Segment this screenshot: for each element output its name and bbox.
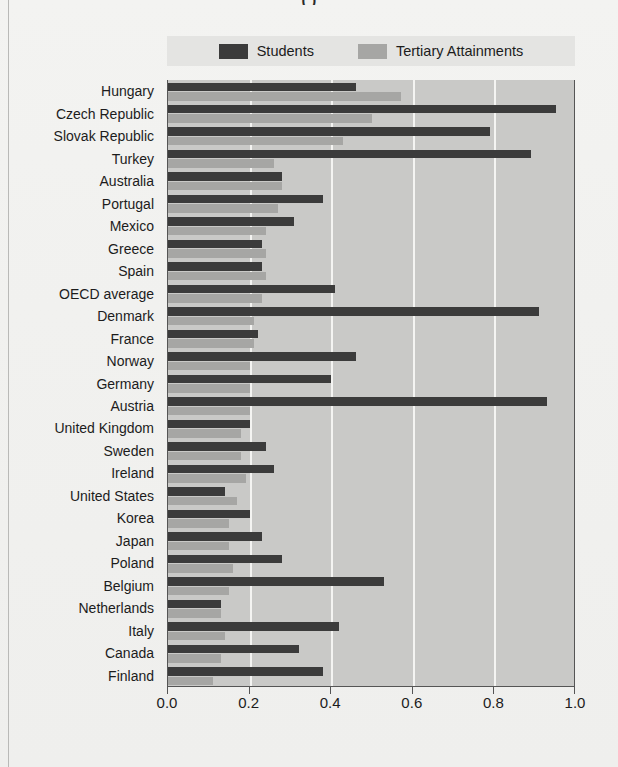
chart-row	[168, 440, 574, 462]
chart-row	[168, 485, 574, 507]
bar-students	[168, 375, 331, 384]
chart-row	[168, 125, 574, 147]
bar-tertiary	[168, 159, 274, 168]
legend-label: Tertiary Attainments	[396, 43, 523, 59]
bar-students	[168, 330, 258, 339]
bar-tertiary	[168, 182, 282, 191]
bar-tertiary	[168, 677, 213, 686]
chart-row	[168, 462, 574, 484]
bar-students	[168, 217, 294, 226]
bar-students	[168, 307, 539, 316]
x-axis-tick-label: 0.8	[483, 694, 504, 711]
chart-row	[168, 170, 574, 192]
chart-plot-area	[167, 80, 575, 687]
y-axis-label: Korea	[117, 510, 154, 526]
bar-tertiary	[168, 249, 266, 258]
bar-students	[168, 397, 547, 406]
chart-row	[168, 237, 574, 259]
legend-label: Students	[257, 43, 314, 59]
bar-students	[168, 510, 250, 519]
y-axis-label: Germany	[96, 376, 154, 392]
bar-tertiary	[168, 114, 372, 123]
bar-tertiary	[168, 474, 246, 483]
bar-tertiary	[168, 564, 233, 573]
bar-tertiary	[168, 519, 229, 528]
bar-tertiary	[168, 272, 266, 281]
bar-tertiary	[168, 362, 250, 371]
chart-row	[168, 642, 574, 664]
bar-students	[168, 127, 490, 136]
chart-row	[168, 192, 574, 214]
legend-entry-2: Tertiary Attainments	[358, 43, 523, 59]
y-axis-label: Spain	[118, 263, 154, 279]
bar-students	[168, 487, 225, 496]
y-axis-label: France	[110, 331, 154, 347]
bar-students	[168, 172, 282, 181]
y-axis-label: Poland	[110, 555, 154, 571]
y-axis-label: Finland	[108, 668, 154, 684]
y-axis-label: Mexico	[110, 218, 154, 234]
y-axis-label: Netherlands	[79, 600, 155, 616]
y-axis-label: Australia	[100, 173, 154, 189]
chart-row	[168, 305, 574, 327]
chart-row	[168, 597, 574, 619]
bar-tertiary	[168, 654, 221, 663]
bar-tertiary	[168, 609, 221, 618]
chart-row	[168, 417, 574, 439]
chart-row	[168, 620, 574, 642]
figure-caption: ( )	[0, 0, 618, 5]
y-axis-label: Norway	[107, 353, 154, 369]
y-axis-label: United Kingdom	[54, 420, 154, 436]
y-axis-label: Greece	[108, 241, 154, 257]
y-axis-label: Hungary	[101, 83, 154, 99]
x-axis-tick	[167, 687, 168, 694]
bar-students	[168, 83, 356, 92]
chart-row	[168, 575, 574, 597]
x-axis-tick-label: 0.0	[157, 694, 178, 711]
x-axis-labels: 0.00.20.40.60.81.0	[167, 694, 575, 716]
chart-row	[168, 327, 574, 349]
bar-tertiary	[168, 542, 229, 551]
bar-tertiary	[168, 204, 278, 213]
y-axis-label: Austria	[110, 398, 154, 414]
bar-students	[168, 442, 266, 451]
legend-entry-1: Students	[219, 43, 314, 59]
y-axis-label: Slovak Republic	[54, 128, 154, 144]
chart-row	[168, 282, 574, 304]
y-axis-label: Japan	[116, 533, 154, 549]
x-axis-tick	[412, 687, 413, 694]
x-axis-tick-label: 0.6	[401, 694, 422, 711]
bar-tertiary	[168, 452, 241, 461]
chart-row	[168, 395, 574, 417]
chart-row	[168, 665, 574, 687]
x-axis-tick	[249, 687, 250, 694]
chart-row	[168, 507, 574, 529]
bar-tertiary	[168, 339, 254, 348]
chart-row	[168, 350, 574, 372]
bar-students	[168, 645, 299, 654]
bar-tertiary	[168, 407, 250, 416]
bar-students	[168, 555, 282, 564]
bar-students	[168, 352, 356, 361]
bar-tertiary	[168, 632, 225, 641]
y-axis-label: United States	[70, 488, 154, 504]
y-axis-label: Turkey	[112, 151, 154, 167]
bar-tertiary	[168, 227, 266, 236]
bar-students	[168, 622, 339, 631]
chart-row	[168, 260, 574, 282]
x-axis-tick-label: 0.2	[238, 694, 259, 711]
y-axis-label: Portugal	[102, 196, 154, 212]
x-axis-tick-label: 1.0	[565, 694, 586, 711]
bar-students	[168, 577, 384, 586]
y-axis-label: OECD average	[59, 286, 154, 302]
chart-row	[168, 215, 574, 237]
y-axis-label: Sweden	[103, 443, 154, 459]
bar-students	[168, 105, 556, 114]
y-axis-label: Czech Republic	[56, 106, 154, 122]
chart-row	[168, 372, 574, 394]
y-axis-label: Ireland	[111, 465, 154, 481]
x-axis-ticks	[167, 687, 575, 694]
bar-students	[168, 240, 262, 249]
y-axis-label: Belgium	[103, 578, 154, 594]
bar-tertiary	[168, 429, 241, 438]
